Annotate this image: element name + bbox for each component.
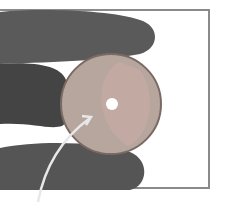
thumb [0, 63, 71, 127]
photo-illustration [0, 0, 227, 202]
top-finger [0, 10, 155, 64]
photo-canvas [0, 0, 227, 202]
disc-hole [106, 98, 118, 110]
